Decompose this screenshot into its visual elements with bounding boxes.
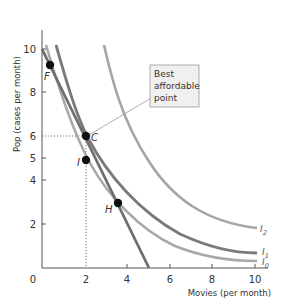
y-tick-label-5: 5 xyxy=(30,153,36,164)
x-axis-title: Movies (per month) xyxy=(188,288,271,298)
point-i xyxy=(82,156,90,164)
point-h xyxy=(114,199,122,207)
x-tick-label-10: 10 xyxy=(249,274,262,285)
point-label-i: I xyxy=(77,157,80,168)
y-tick-label-10: 10 xyxy=(23,44,36,55)
y-axis-title: Pop (cases per month) xyxy=(12,56,22,152)
x-tick-label-2: 2 xyxy=(83,274,89,285)
point-label-h: H xyxy=(105,204,113,215)
y-tick-label-6: 6 xyxy=(30,131,36,142)
callout-line-2: affordable xyxy=(154,81,200,91)
x-tick-label-8: 8 xyxy=(209,274,215,285)
guide-lines xyxy=(42,136,86,268)
point-label-f: F xyxy=(44,71,50,82)
curve-labels: I2 I1 I0 xyxy=(260,224,269,270)
callout-line-1: Best xyxy=(154,69,174,79)
budget-line xyxy=(42,49,149,268)
x-tick-label-6: 6 xyxy=(167,274,173,285)
curves xyxy=(42,45,257,268)
label-i2: I2 xyxy=(260,224,267,237)
y-tick-label-2: 2 xyxy=(30,219,36,230)
indifference-curve-chart: 10 8 6 5 4 2 0 2 4 6 8 10 Movies (per mo… xyxy=(0,0,289,302)
y-tick-label-4: 4 xyxy=(30,175,36,186)
point-label-c: C xyxy=(91,132,98,143)
callout-line-3: point xyxy=(154,93,177,103)
x-tick-label-4: 4 xyxy=(124,274,130,285)
origin-label: 0 xyxy=(30,274,36,285)
y-tick-label-8: 8 xyxy=(30,87,36,98)
point-c xyxy=(82,132,90,140)
best-affordable-callout: Best affordable point xyxy=(89,65,200,135)
point-f xyxy=(46,61,54,69)
point-labels: F C I H xyxy=(44,71,113,215)
